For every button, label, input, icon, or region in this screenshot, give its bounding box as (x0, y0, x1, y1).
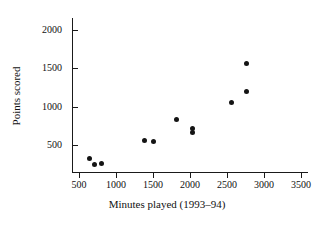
x-tick-1500 (153, 173, 154, 178)
y-tick-label-2000: 2000 (28, 25, 62, 35)
data-point (151, 139, 156, 144)
x-tick-500 (79, 173, 80, 178)
x-tick-3500 (301, 173, 302, 178)
x-tick-2500 (227, 173, 228, 178)
x-tick-3000 (264, 173, 265, 178)
data-point (142, 138, 147, 143)
y-axis-label: Points scored (10, 66, 22, 125)
data-point (174, 117, 179, 122)
x-tick-1000 (116, 173, 117, 178)
data-point (99, 161, 104, 166)
data-point (190, 130, 195, 135)
scatter-plot-figure: Points scored 500100015002000 5001000150… (0, 0, 334, 230)
plot-data-area (72, 18, 308, 172)
data-point (229, 100, 234, 105)
y-tick-label-500: 500 (28, 140, 62, 150)
y-tick-label-1000: 1000 (28, 102, 62, 112)
x-tick-label-3500: 3500 (281, 180, 321, 190)
data-point (87, 156, 92, 161)
data-point (92, 162, 97, 167)
y-axis-label-container: Points scored (8, 18, 24, 173)
data-point (244, 89, 249, 94)
x-tick-label-1500: 1500 (133, 180, 173, 190)
x-tick-label-2500: 2500 (207, 180, 247, 190)
x-tick-2000 (190, 173, 191, 178)
x-tick-label-1000: 1000 (96, 180, 136, 190)
data-point (244, 61, 249, 66)
x-axis-label: Minutes played (1993–94) (0, 198, 334, 210)
y-tick-label-1500: 1500 (28, 63, 62, 73)
x-tick-label-500: 500 (59, 180, 99, 190)
x-tick-label-3000: 3000 (244, 180, 284, 190)
x-tick-label-2000: 2000 (170, 180, 210, 190)
